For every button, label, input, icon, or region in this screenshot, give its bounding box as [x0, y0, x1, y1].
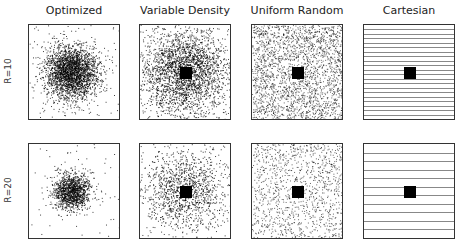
mask-panel-vd-r10 [139, 24, 231, 120]
calibration-region [180, 67, 192, 79]
mask-panel-uniform-r10 [251, 24, 343, 120]
column-title-uniform-random: Uniform Random [242, 4, 352, 17]
column-title-variable-density: Variable Density [130, 4, 240, 17]
mask-panel-cartesian-r20 [363, 143, 455, 239]
column-title-cartesian: Cartesian [354, 4, 464, 17]
calibration-region [404, 186, 416, 198]
calibration-region [292, 67, 304, 79]
mask-panel-vd-r20 [139, 143, 231, 239]
mask-panel-uniform-r20 [251, 143, 343, 239]
calibration-region [180, 186, 192, 198]
mask-panel-optimized-r10 [28, 24, 120, 120]
calibration-region [292, 186, 304, 198]
mask-panel-optimized-r20 [28, 143, 120, 239]
mask-panel-cartesian-r10 [363, 24, 455, 120]
row-label-r10: R=10 [3, 51, 13, 91]
row-label-r20: R=20 [3, 170, 13, 210]
calibration-region [404, 67, 416, 79]
column-title-optimized: Optimized [19, 4, 129, 17]
